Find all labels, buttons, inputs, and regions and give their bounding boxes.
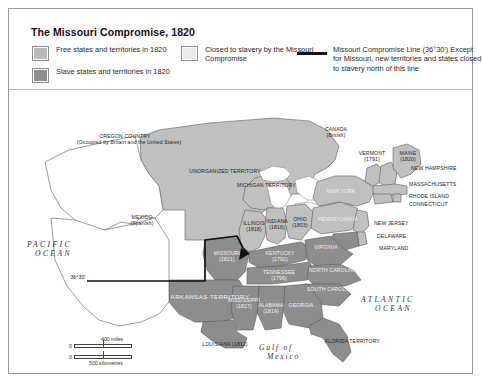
map-label-ohio: OHIO (1803) — [287, 216, 313, 228]
mississippi-year: (1817) — [236, 303, 252, 309]
map-label-canada: CANADA (British) — [305, 126, 367, 138]
map-label-atlantic-ocean: ATLANTIC OCEAN — [361, 295, 415, 313]
region-mexico — [51, 218, 169, 326]
map-label-rhode-island: RHODE ISLAND — [409, 193, 453, 199]
canada-sub: (British) — [327, 132, 346, 138]
gulf-line2: Mexico — [267, 352, 300, 361]
map-label-vermont: VERMONT (1791) — [353, 150, 391, 162]
scale-label-km: 500 kilometres — [89, 360, 123, 366]
map-label-maryland: MARYLAND — [379, 245, 417, 251]
atlantic-line1: ATLANTIC — [361, 295, 415, 304]
gulf-line1: Gulf of — [259, 343, 300, 352]
scale-zero-miles: 0 — [69, 343, 72, 349]
scale-tick-km — [103, 351, 104, 359]
legend-line-icon — [297, 52, 327, 55]
page-title: The Missouri Compromise, 1820 — [31, 26, 195, 38]
map-label-florida-territory: FLORIDA TERRITORY — [325, 338, 375, 344]
map-label-kentucky: KENTUCKY (1792) — [259, 250, 301, 262]
illinois-year: (1818) — [246, 226, 262, 232]
map-label-pennsylvania: PENNSYLVANIA — [314, 216, 362, 222]
map-label-north-carolina: NORTH CAROLINA — [309, 268, 349, 274]
atlantic-line2: OCEAN — [375, 304, 415, 313]
vermont-year: (1791) — [364, 156, 380, 162]
legend-line-title: Missouri Compromise Line (36°30') — [333, 45, 448, 54]
legend-label-slave: Slave states and territories in 1820 — [56, 67, 176, 76]
state-connecticut — [373, 194, 393, 204]
map-label-missouri: MISSOURI (1821) — [205, 250, 249, 262]
legend-swatch-closed — [181, 46, 198, 61]
map-label-oregon-country: OREGON COUNTRY (Occupied by Britain and … — [77, 133, 173, 145]
map-canvas: OREGON COUNTRY (Occupied by Britain and … — [9, 90, 472, 373]
map-label-virginia: VIRGINIA — [307, 244, 345, 250]
kentucky-year: (1792) — [272, 256, 288, 262]
louisiana-year: (1812) — [232, 341, 248, 347]
map-label-new-york: NEW YORK — [321, 188, 361, 194]
scale-zero-km: 0 — [69, 354, 72, 360]
map-figure: The Missouri Compromise, 1820 Free state… — [8, 8, 473, 374]
tennessee-year: (1796) — [271, 275, 287, 281]
pacific-line1: PACIFIC — [27, 240, 72, 249]
map-label-south-carolina: SOUTH CAROLINA — [307, 287, 347, 293]
alabama-year: (1819) — [263, 308, 279, 314]
legend-swatch-free — [32, 46, 49, 61]
legend-label-line: Missouri Compromise Line (36°30') Except… — [333, 45, 483, 73]
map-label-gulf-of-mexico: Gulf of Mexico — [259, 343, 300, 361]
map-label-pacific-ocean: PACIFIC OCEAN — [27, 240, 72, 258]
louisiana-name: LOUISIANA — [202, 341, 230, 347]
scale-label-miles: 400 miles — [101, 336, 123, 342]
map-label-mexico: MEXICO (Spanish) — [110, 214, 174, 226]
map-label-connecticut: CONNECTICUT — [409, 201, 453, 207]
maine-year: (1820) — [400, 156, 416, 162]
map-label-tennessee: TENNESSEE (1796) — [257, 269, 301, 281]
missouri-year: (1821) — [219, 256, 235, 262]
legend: The Missouri Compromise, 1820 Free state… — [9, 9, 472, 89]
pacific-line2: OCEAN — [35, 249, 72, 258]
map-label-new-jersey: NEW JERSEY — [374, 220, 416, 226]
map-label-compromise-line-degree: 36°30' — [65, 274, 91, 280]
legend-label-free: Free states and territories in 1820 — [56, 45, 176, 54]
state-rhode-island — [393, 194, 401, 202]
map-label-michigan-territory: MICHIGAN TERRITORY — [237, 182, 285, 188]
scale-bar: 0 400 miles 0 500 kilometres — [69, 337, 164, 367]
map-label-georgia: GEORGIA — [281, 302, 321, 308]
mexico-sub: (Spanish) — [130, 220, 153, 226]
indiana-year: (1816) — [269, 224, 285, 230]
map-label-new-hampshire: NEW HAMPSHIRE — [411, 166, 453, 172]
oregon-country-sub: (Occupied by Britain and the United Stat… — [77, 139, 181, 145]
map-label-maine: MAINE (1820) — [391, 150, 425, 162]
map-label-massachusetts: MASSACHUSETTS — [409, 181, 457, 187]
ohio-year: (1803) — [292, 222, 308, 228]
map-label-delaware: DELAWARE — [377, 233, 415, 239]
legend-swatch-slave — [32, 68, 49, 83]
map-label-unorganized-territory: UNORGANIZED TERRITORY — [172, 168, 278, 174]
map-label-louisiana: LOUISIANA (1812) — [195, 341, 255, 347]
